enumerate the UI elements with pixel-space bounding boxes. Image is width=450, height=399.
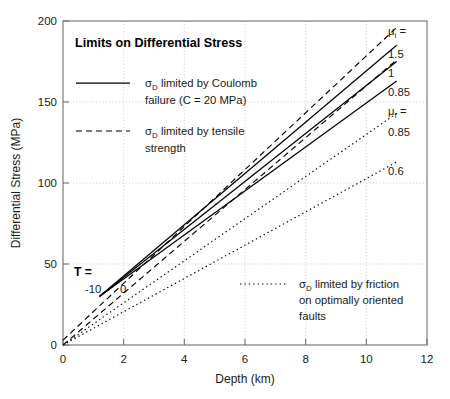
mu-i-value-1: 1 (388, 67, 394, 79)
legend-friction-line2: on optimally oriented (299, 294, 403, 306)
xtick-label-0: 0 (60, 353, 66, 365)
xtick-label-8: 8 (302, 353, 308, 365)
xtick-label-2: 2 (120, 353, 126, 365)
xtick-label-12: 12 (421, 353, 434, 365)
tensile-group-label: T = (74, 265, 92, 279)
xtick-label-10: 10 (360, 353, 373, 365)
mu-f-value-0p6: 0.6 (388, 165, 404, 177)
mu-i-value-0p85: 0.85 (388, 86, 410, 98)
chart-background (0, 0, 450, 399)
legend-tensile-line2: strength (145, 142, 186, 154)
x-axis-title: Depth (km) (215, 372, 274, 386)
xtick-label-4: 4 (181, 353, 188, 365)
tensile-value-minus10: -10 (85, 283, 101, 295)
ytick-label-150: 150 (38, 96, 57, 108)
legend-friction-line3: faults (299, 310, 326, 322)
mu-f-value-0p85: 0.85 (388, 126, 410, 138)
ytick-label-50: 50 (44, 258, 57, 270)
tensile-value-0: 0 (120, 283, 126, 295)
xtick-label-6: 6 (242, 353, 248, 365)
y-axis-title: Differential Stress (MPa) (9, 118, 23, 248)
ytick-label-100: 100 (38, 177, 57, 189)
legend-coulomb-line2: failure (C = 20 MPa) (145, 94, 247, 106)
differential-stress-chart: 0 50 100 150 200 0 2 4 6 8 10 12 Depth (… (0, 0, 450, 399)
chart-title: Limits on Differential Stress (75, 36, 242, 50)
ytick-label-0: 0 (51, 339, 57, 351)
ytick-label-200: 200 (38, 15, 57, 27)
mu-i-value-1p5: 1.5 (388, 48, 404, 60)
